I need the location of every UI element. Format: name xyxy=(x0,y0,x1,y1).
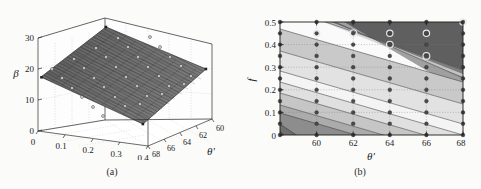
panel-b-contour-map: 60 62 64 66 68 θ' 0.5 0.4 0.3 0.2 0.1 0 … xyxy=(240,0,481,189)
theta-tick-label-66: 66 xyxy=(167,144,175,153)
y-tick-label-03: 0.3 xyxy=(265,63,277,73)
panel-a-plot-area: 30 20 10 0 β xyxy=(12,18,224,174)
x-axis-label-theta: θ' xyxy=(367,150,375,162)
theta-tick-label-62: 62 xyxy=(199,131,207,140)
panel-a-svg: 30 20 10 0 β xyxy=(0,0,240,189)
x-tick-label-68: 68 xyxy=(457,138,467,148)
y-tick-label-02: 0.2 xyxy=(265,85,276,95)
panel-b-svg: 60 62 64 66 68 θ' 0.5 0.4 0.3 0.2 0.1 0 … xyxy=(240,0,481,189)
z-tick-label-0: 0 xyxy=(30,126,35,136)
z-tick-label-30: 30 xyxy=(25,33,35,43)
y-tick-label-05: 0.5 xyxy=(265,18,277,28)
f-tick-label-0: 0 xyxy=(31,137,36,147)
subcaption-b: (b) xyxy=(340,166,380,177)
f-tick-label-02: 0.2 xyxy=(82,145,93,155)
x-tick-label-64: 64 xyxy=(385,138,395,148)
subcaption-a: (a) xyxy=(92,166,132,177)
theta-tick-label-64: 64 xyxy=(183,138,191,147)
y-tick-label-01: 0.1 xyxy=(265,108,276,118)
y-tick-label-0: 0 xyxy=(272,131,277,141)
x-tick-label-62: 62 xyxy=(349,138,358,148)
y-tick-label-04: 0.4 xyxy=(265,40,277,50)
z-tick-label-20: 20 xyxy=(25,64,35,74)
z-tick-label-10: 10 xyxy=(25,95,35,105)
x-tick-label-60: 60 xyxy=(312,138,322,148)
x-tick-label-66: 66 xyxy=(422,138,432,148)
f-tick-label-04: 0.4 xyxy=(137,153,149,163)
f-tick-label-01: 0.1 xyxy=(55,141,66,151)
theta-tick-label-68: 68 xyxy=(152,150,160,159)
panel-a-3d-surface: 30 20 10 0 β xyxy=(0,0,240,189)
z-axis-label-beta: β xyxy=(12,67,19,79)
y-axis-label-theta: θ' xyxy=(207,145,215,157)
y-axis-label-f: f xyxy=(245,77,257,82)
theta-tick-label-60: 60 xyxy=(216,124,224,133)
figure-container: 30 20 10 0 β xyxy=(0,0,481,189)
f-tick-label-03: 0.3 xyxy=(110,149,122,159)
